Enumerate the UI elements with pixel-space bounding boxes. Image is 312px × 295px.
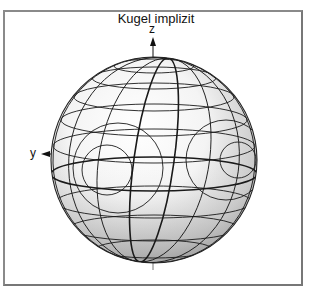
sphere [46,46,266,274]
z-axis [150,37,156,58]
y-axis [41,151,51,157]
sphere-diagram [0,0,312,295]
